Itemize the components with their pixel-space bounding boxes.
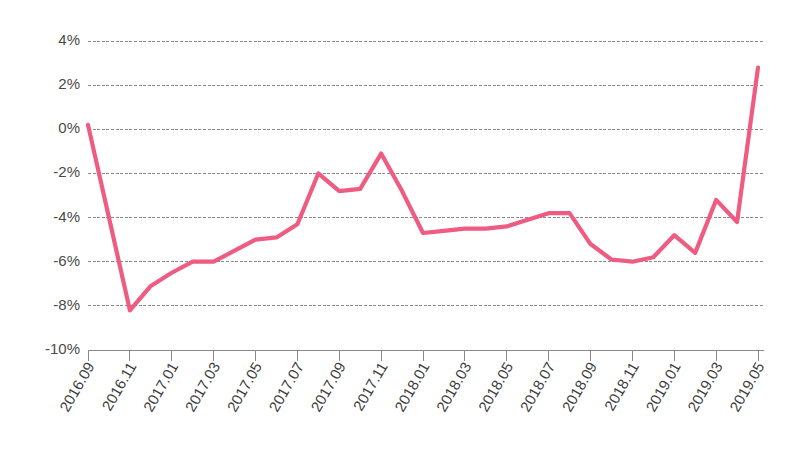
y-axis-tick-label: -8% <box>53 296 80 313</box>
x-axis-tick-label: 2017.01 <box>140 359 182 414</box>
line-chart: 4%2%0%-2%-4%-6%-8%-10% 2016.092016.11201… <box>0 0 794 467</box>
x-axis-tick-label: 2017.09 <box>307 359 349 414</box>
x-axis-tick-label: 2017.05 <box>223 359 265 414</box>
y-axis-tick-label: 4% <box>58 31 80 48</box>
y-axis-tick-label: 0% <box>58 119 80 136</box>
x-axis-tick-label: 2018.03 <box>433 359 475 414</box>
x-axis-tick-label: 2018.01 <box>391 359 433 414</box>
y-axis-tick-label: -6% <box>53 252 80 269</box>
x-axis-tick-label: 2017.03 <box>181 359 223 414</box>
y-axis-tick-label: -4% <box>53 208 80 225</box>
x-axis <box>88 350 764 361</box>
data-series <box>88 67 758 310</box>
x-axis-tick-label: 2016.11 <box>98 359 139 413</box>
x-axis-tick-label: 2017.07 <box>265 359 307 414</box>
x-axis-tick-label: 2018.09 <box>558 359 600 414</box>
x-axis-tick-label: 2018.07 <box>516 359 558 414</box>
x-axis-tick-label: 2018.11 <box>601 359 642 413</box>
x-axis-tick-label: 2019.01 <box>642 359 684 414</box>
x-axis-tick-label: 2019.05 <box>726 359 768 414</box>
y-axis-tick-labels: 4%2%0%-2%-4%-6%-8%-10% <box>45 31 80 357</box>
y-axis-tick-label: -2% <box>53 163 80 180</box>
y-axis-tick-label: 2% <box>58 75 80 92</box>
series-line <box>88 67 758 310</box>
x-axis-tick-label: 2016.09 <box>56 359 98 414</box>
x-axis-tick-labels: 2016.092016.112017.012017.032017.052017.… <box>56 359 768 414</box>
y-axis-tick-label: -10% <box>45 340 80 357</box>
gridlines <box>88 41 764 350</box>
x-axis-tick-label: 2019.03 <box>684 359 726 414</box>
chart-canvas: 4%2%0%-2%-4%-6%-8%-10% 2016.092016.11201… <box>0 0 794 467</box>
x-axis-tick-label: 2017.11 <box>349 359 390 413</box>
x-axis-tick-label: 2018.05 <box>475 359 517 414</box>
